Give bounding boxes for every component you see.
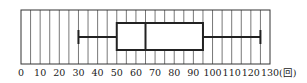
tick-label: 110 <box>223 67 241 78</box>
tick-label: 10 <box>34 67 46 78</box>
tick-label: 80 <box>168 67 180 78</box>
unit-label: (回) <box>279 67 296 78</box>
tick-label: 130 <box>261 67 279 78</box>
tick-label: 0 <box>18 67 24 78</box>
box-and-whisker <box>78 23 260 50</box>
tick-label: 70 <box>149 67 161 78</box>
box-plot-chart: 0102030405060708090100110120130 (回) <box>0 0 307 83</box>
x-axis-tick-labels: 0102030405060708090100110120130 <box>18 67 279 78</box>
tick-label: 20 <box>53 67 65 78</box>
tick-label: 60 <box>130 67 142 78</box>
tick-label: 100 <box>203 67 221 78</box>
tick-label: 50 <box>111 67 123 78</box>
tick-label: 120 <box>242 67 260 78</box>
tick-label: 90 <box>187 67 199 78</box>
tick-label: 40 <box>92 67 104 78</box>
iqr-box <box>117 23 203 50</box>
tick-label: 30 <box>72 67 84 78</box>
